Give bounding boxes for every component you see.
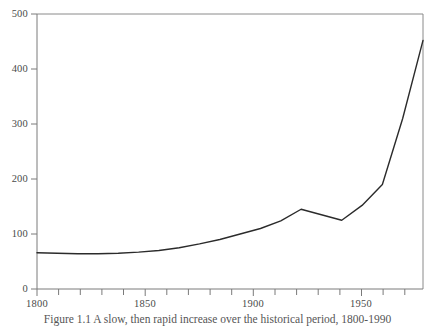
x-axis-label-1900: 1900 bbox=[233, 298, 273, 309]
y-axis-label-300: 300 bbox=[0, 118, 28, 129]
x-axis-label-1800: 1800 bbox=[17, 298, 57, 309]
x-axis-label-1950: 1950 bbox=[341, 298, 381, 309]
figure-container: 500 400 300 200 100 0 1800 1850 1900 195… bbox=[0, 0, 435, 327]
y-axis-ticks bbox=[31, 14, 37, 289]
line-chart-plot bbox=[0, 0, 435, 327]
x-axis-label-1850: 1850 bbox=[125, 298, 165, 309]
y-axis-label-200: 200 bbox=[0, 173, 28, 184]
y-axis-label-100: 100 bbox=[0, 228, 28, 239]
y-axis-label-400: 400 bbox=[0, 63, 28, 74]
data-series-line bbox=[37, 40, 423, 253]
x-axis-ticks bbox=[37, 289, 405, 296]
figure-caption: Figure 1.1 A slow, then rapid increase o… bbox=[0, 312, 435, 327]
plot-frame bbox=[37, 14, 423, 289]
y-axis-label-500: 500 bbox=[0, 8, 28, 19]
y-axis-label-0: 0 bbox=[0, 283, 28, 294]
